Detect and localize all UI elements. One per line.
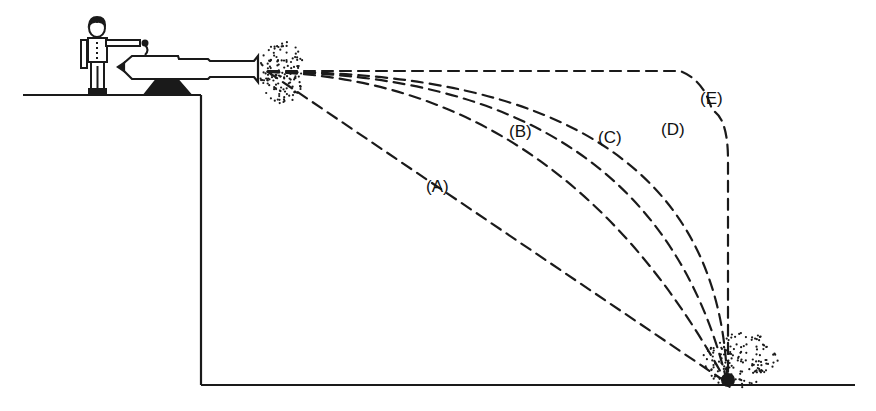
debris-particle bbox=[736, 343, 738, 345]
debris-particle bbox=[714, 363, 716, 365]
debris-particle bbox=[738, 333, 740, 335]
debris-particle bbox=[761, 370, 763, 372]
smoke-particle bbox=[280, 86, 282, 88]
debris-particle bbox=[731, 357, 733, 359]
smoke-particle bbox=[299, 88, 301, 90]
cannon-trajectory-diagram: (A) (B) (C) (D) (E) bbox=[0, 0, 876, 411]
smoke-particle bbox=[263, 79, 265, 81]
debris-particle bbox=[706, 358, 708, 360]
smoke-particle bbox=[296, 56, 298, 58]
debris-particle bbox=[762, 348, 764, 350]
debris-particle bbox=[730, 337, 732, 339]
debris-particle bbox=[725, 349, 727, 351]
smoke-particle bbox=[300, 72, 302, 74]
smoke-particle bbox=[281, 43, 283, 45]
debris-particle bbox=[731, 375, 733, 377]
smoke-particle bbox=[283, 76, 285, 78]
debris-particle bbox=[739, 378, 741, 380]
debris-particle bbox=[742, 361, 744, 363]
debris-particle bbox=[758, 360, 760, 362]
smoke-particle bbox=[262, 82, 264, 84]
person-left-arm bbox=[81, 40, 87, 68]
smoke-particle bbox=[270, 67, 272, 69]
debris-particle bbox=[713, 347, 715, 349]
debris-particle bbox=[751, 336, 753, 338]
smoke-particle bbox=[277, 46, 279, 48]
smoke-particle bbox=[274, 48, 276, 50]
smoke-particle bbox=[286, 93, 288, 95]
smoke-particle bbox=[268, 84, 270, 86]
debris-particle bbox=[745, 359, 747, 361]
debris-particle bbox=[726, 377, 728, 379]
debris-particle bbox=[772, 354, 774, 356]
smoke-particle bbox=[284, 91, 286, 93]
smoke-particle bbox=[263, 54, 265, 56]
smoke-particle bbox=[265, 92, 267, 94]
smoke-particle bbox=[281, 59, 283, 61]
smoke-particle bbox=[292, 57, 294, 59]
debris-particle bbox=[745, 343, 747, 345]
smoke-particle bbox=[296, 59, 298, 61]
person-feet bbox=[89, 89, 106, 94]
smoke-particle bbox=[276, 64, 278, 66]
debris-particle bbox=[754, 371, 756, 373]
debris-particle bbox=[728, 366, 730, 368]
smoke-particle bbox=[298, 65, 300, 67]
smoke-particle bbox=[268, 49, 270, 51]
person-right-arm bbox=[106, 40, 140, 46]
smoke-particle bbox=[278, 99, 280, 101]
debris-particle bbox=[732, 354, 734, 356]
cannonball bbox=[721, 373, 735, 387]
debris-particle bbox=[760, 364, 762, 366]
debris-particle bbox=[755, 353, 757, 355]
debris-particle bbox=[711, 359, 713, 361]
debris-particle bbox=[735, 378, 737, 380]
debris-particle bbox=[729, 345, 731, 347]
smoke-particle bbox=[270, 46, 272, 48]
smoke-particle bbox=[277, 59, 279, 61]
smoke-particle bbox=[295, 53, 297, 55]
smoke-particle bbox=[265, 72, 267, 74]
debris-particle bbox=[720, 353, 722, 355]
debris-particle bbox=[762, 344, 764, 346]
debris-particle bbox=[729, 351, 731, 353]
smoke-particle bbox=[278, 95, 280, 97]
smoke-particle bbox=[298, 76, 300, 78]
smoke-particle bbox=[275, 56, 277, 58]
debris-particle bbox=[727, 370, 729, 372]
debris-particle bbox=[757, 334, 759, 336]
debris-particle bbox=[758, 339, 760, 341]
debris-particle bbox=[713, 366, 715, 368]
debris-particle bbox=[727, 359, 729, 361]
smoke-particle bbox=[290, 79, 292, 81]
debris-particle bbox=[759, 354, 761, 356]
debris-particle bbox=[718, 361, 720, 363]
debris-particle bbox=[728, 386, 730, 388]
smoke-particle bbox=[273, 52, 275, 54]
debris-particle bbox=[743, 345, 745, 347]
trajectory-a bbox=[268, 72, 720, 378]
debris-particle bbox=[740, 351, 742, 353]
debris-particle bbox=[752, 358, 754, 360]
debris-particle bbox=[740, 370, 742, 372]
smoke-particle bbox=[267, 63, 269, 65]
label-d: (D) bbox=[661, 120, 685, 139]
label-e: (E) bbox=[700, 89, 723, 108]
debris-particle bbox=[765, 369, 767, 371]
smoke-particle bbox=[260, 62, 262, 64]
debris-particle bbox=[726, 338, 728, 340]
debris-particle bbox=[766, 346, 768, 348]
debris-particle bbox=[723, 365, 725, 367]
debris-particle bbox=[713, 349, 715, 351]
smoke-particle bbox=[279, 49, 281, 51]
debris-particle bbox=[705, 365, 707, 367]
debris-particle bbox=[712, 364, 714, 366]
smoke-particle bbox=[274, 46, 276, 48]
smoke-particle bbox=[290, 61, 292, 63]
smoke-particle bbox=[294, 75, 296, 77]
smoke-particle bbox=[260, 78, 262, 80]
debris-particle bbox=[751, 339, 753, 341]
debris-particle bbox=[732, 367, 734, 369]
debris-particle bbox=[759, 336, 761, 338]
smoke-particle bbox=[283, 60, 285, 62]
